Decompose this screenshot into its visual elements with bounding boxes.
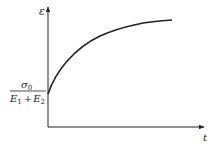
svg-text:σ0: σ0 xyxy=(21,79,32,92)
strain-curve xyxy=(48,20,172,94)
x-axis-label: t xyxy=(203,132,208,143)
creep-curve-diagram: ε t σ0 E1+E2 xyxy=(0,0,212,144)
svg-text:E1+E2: E1+E2 xyxy=(9,93,45,106)
y-axis-label: ε xyxy=(39,5,45,18)
initial-value-label: σ0 E1+E2 xyxy=(9,79,46,106)
